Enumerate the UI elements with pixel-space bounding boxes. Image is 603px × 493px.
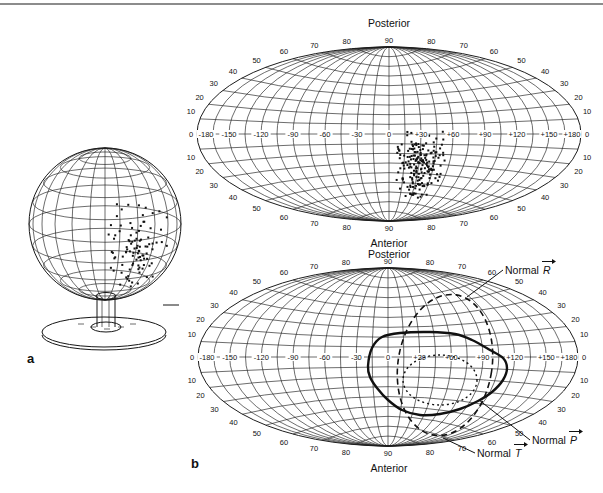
scatter-point <box>412 158 414 160</box>
scatter-point <box>136 238 138 240</box>
panel-a-label: a <box>27 351 35 366</box>
scatter-point <box>129 250 131 252</box>
scatter-point <box>433 141 435 143</box>
latitude-rim-label: 30 <box>560 79 568 88</box>
scatter-point <box>442 152 444 154</box>
longitude-label: 0 <box>386 353 390 362</box>
latitude-rim-label: 80 <box>342 37 350 46</box>
latitude-rim-label: 70 <box>459 41 467 50</box>
longitude-label: -180 <box>198 130 213 139</box>
scatter-point <box>415 176 417 178</box>
scatter-point <box>161 241 163 243</box>
scatter-point <box>408 189 410 191</box>
scatter-point <box>116 203 118 205</box>
latitude-rim-label: 50 <box>253 277 261 286</box>
longitude-label: -90 <box>288 130 299 139</box>
scatter-point <box>146 246 148 248</box>
latitude-rim-label: 10 <box>583 107 591 116</box>
latitude-rim-label: 30 <box>210 301 218 310</box>
latitude-rim-label: 30 <box>557 301 565 310</box>
longitude-label: +120 <box>509 130 526 139</box>
longitude-label: +180 <box>561 353 578 362</box>
scatter-point <box>110 267 112 269</box>
latitude-rim-label: 20 <box>196 315 204 324</box>
longitude-label: +90 <box>477 353 490 362</box>
latitude-rim-label: 20 <box>574 167 582 176</box>
longitude-label: +30 <box>415 130 428 139</box>
longitude-label: +150 <box>538 353 555 362</box>
scatter-point <box>409 156 411 158</box>
scatter-point <box>424 167 426 169</box>
scatter-point <box>434 177 436 179</box>
edge-zero-label-right: 0 <box>582 353 586 362</box>
scatter-point <box>418 173 420 175</box>
scatter-point <box>148 265 150 267</box>
scatter-point <box>428 161 430 163</box>
latitude-rim-label: 80 <box>342 223 350 232</box>
scatter-point <box>427 149 429 151</box>
scatter-point <box>131 241 133 243</box>
scatter-point <box>411 148 413 150</box>
latitude-rim-label: 40 <box>538 288 546 297</box>
latitude-rim-label: 80 <box>427 223 435 232</box>
scatter-point <box>403 168 405 170</box>
scatter-point <box>425 142 427 144</box>
scatter-point <box>430 152 432 154</box>
latitude-rim-label: 50 <box>517 204 525 213</box>
latitude-rim-label: 30 <box>210 79 218 88</box>
scatter-point <box>406 134 408 136</box>
scatter-point <box>156 242 158 244</box>
scatter-point <box>405 161 407 163</box>
scatter-point <box>134 248 136 250</box>
scatter-point <box>412 181 414 183</box>
scatter-point <box>409 193 411 195</box>
latitude-rim-label: 20 <box>571 315 579 324</box>
latitude-rim-label: 40 <box>229 193 237 202</box>
longitude-label: -30 <box>351 353 362 362</box>
scatter-point <box>431 169 433 171</box>
scatter-point <box>108 234 110 236</box>
projection-map-bottom: 1010101020202020303030304040404050505050… <box>188 257 589 458</box>
scatter-point <box>422 159 424 161</box>
scatter-point <box>410 132 412 134</box>
scatter-point <box>413 155 415 157</box>
scatter-point <box>134 240 136 242</box>
panel-b-label: b <box>191 456 199 471</box>
scatter-point <box>441 144 443 146</box>
scatter-point <box>139 246 141 248</box>
scatter-point <box>137 252 139 254</box>
scatter-point <box>417 176 419 178</box>
scatter-point <box>442 139 444 141</box>
scatter-point <box>166 245 168 247</box>
scatter-point <box>413 163 415 165</box>
scatter-point <box>426 165 428 167</box>
scatter-point <box>421 194 423 196</box>
latitude-rim-label: 70 <box>459 219 467 228</box>
scatter-point <box>412 194 414 196</box>
latitude-rim-label: 10 <box>187 153 195 162</box>
scatter-point <box>420 159 422 161</box>
scatter-point <box>417 143 419 145</box>
latitude-rim-label: 50 <box>252 204 260 213</box>
scatter-point <box>151 262 153 264</box>
latitude-rim-label: 20 <box>195 167 203 176</box>
scatter-point <box>423 154 425 156</box>
scatter-point <box>152 212 154 214</box>
scatter-point <box>152 243 154 245</box>
scatter-point <box>147 237 149 239</box>
latitude-rim-label: 40 <box>538 418 546 427</box>
scatter-point <box>406 131 408 133</box>
annotation-vector-letter: P <box>570 434 577 446</box>
scatter-point <box>433 169 435 171</box>
edge-zero-label-left: 0 <box>189 130 193 139</box>
scatter-point <box>402 177 404 179</box>
scatter-point <box>120 225 122 227</box>
scatter-point <box>417 161 419 163</box>
scatter-point <box>419 189 421 191</box>
scatter-point <box>425 159 427 161</box>
scatter-point <box>130 243 132 245</box>
latitude-rim-label: 20 <box>196 391 204 400</box>
latitude-rim-label: 60 <box>488 438 496 447</box>
scatter-point <box>125 251 127 253</box>
pole-label-bottom: 90 <box>384 449 392 458</box>
